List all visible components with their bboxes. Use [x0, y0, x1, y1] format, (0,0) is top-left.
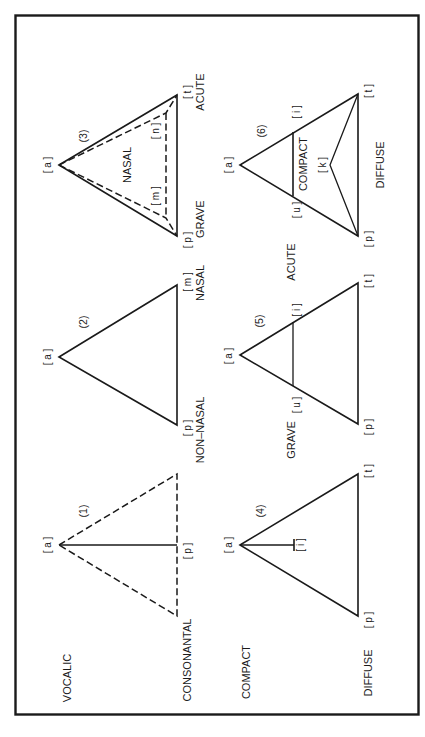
panel-5-vertex-i: [ i ]: [291, 303, 302, 317]
panel-4-number: (4): [254, 505, 266, 518]
panel-6-k-chevron: [330, 94, 358, 236]
panel-6-vertex-u: [ u ]: [291, 201, 302, 218]
panel-4-compact-label: COMPACT: [240, 645, 252, 699]
panel-5-vertex-p: [ p ]: [363, 418, 374, 435]
panel-4-vertex-t: [ t ]: [363, 464, 374, 478]
panel-3-vertex-t: [ t ]: [182, 85, 193, 99]
panel-5-vertex-a: [ a ]: [223, 347, 234, 364]
panel-2-vertex-p: [ p ]: [182, 419, 193, 436]
panel-4: (4) [ a ] [ i ] [ t ] [ p ] COMPACT DIFF…: [223, 464, 374, 699]
panel-1-vocalic-label: VOCALIC: [61, 654, 73, 702]
panel-2-vertex-m: [ m ]: [182, 272, 193, 292]
panel-2: (2) [ a ] [ m ] [ p ] NASAL NON–NASAL: [42, 265, 206, 463]
panel-1: (1) [ a ] [ p ] CONSONANTAL VOCALIC: [42, 474, 193, 702]
panel-6-vertex-p: [ p ]: [363, 230, 374, 247]
panel-4-vertex-a: [ a ]: [223, 536, 234, 553]
panel-3: (3) [ a ] [ t ] [ p ] [ n ] [ m ] NASAL …: [42, 73, 206, 248]
panel-3-vertex-a: [ a ]: [42, 156, 53, 173]
panel-3-vertex-m: [ m ]: [150, 186, 161, 206]
panel-6-compact-label: COMPACT: [297, 137, 309, 191]
panel-6-vertex-k: [ k ]: [317, 157, 328, 173]
panel-2-vertex-a: [ a ]: [42, 348, 53, 365]
panel-4-diffuse-label: DIFFUSE: [362, 649, 374, 696]
panel-5-vertex-u: [ u ]: [291, 396, 302, 413]
panel-3-nasal-label: NASAL: [121, 147, 133, 183]
panel-6-vertex-a: [ a ]: [223, 156, 234, 173]
panel-3-grave-label: GRAVE: [194, 200, 206, 238]
panel-6-number: (6): [255, 125, 267, 138]
panel-4-vertex-p: [ p ]: [363, 611, 374, 628]
panel-3-acute-label: ACUTE: [194, 73, 206, 110]
panel-2-triangle: [59, 285, 177, 425]
panel-6-vertex-t: [ t ]: [363, 84, 374, 98]
panel-1-vertex-a: [ a ]: [42, 536, 53, 553]
panel-5-grave-label: GRAVE: [285, 421, 297, 459]
panel-6: (6) [ a ] [ t ] [ p ] [ i ] [ u ] COMPAC…: [223, 84, 386, 248]
panel-5-acute-label: ACUTE: [285, 243, 297, 280]
panel-3-vertex-n: [ n ]: [150, 122, 161, 139]
panel-1-consonantal-label: CONSONANTAL: [181, 619, 193, 702]
panel-3-vertex-p: [ p ]: [182, 231, 193, 248]
panel-4-vertex-i: [ i ]: [295, 538, 306, 552]
panel-6-diffuse-label: DIFFUSE: [374, 141, 386, 188]
panel-2-number: (2): [77, 316, 89, 329]
panel-6-vertex-i: [ i ]: [291, 105, 302, 119]
panel-5: (5) [ a ] [ t ] [ p ] [ i ] [ u ] ACUTE …: [223, 243, 374, 458]
panel-2-non-nasal-label: NON–NASAL: [194, 397, 206, 464]
panel-5-number: (5): [253, 315, 265, 328]
panel-5-vertex-t: [ t ]: [363, 274, 374, 288]
panel-1-number: (1): [77, 505, 89, 518]
phonological-triangles-figure: (3) [ a ] [ t ] [ p ] [ n ] [ m ] NASAL …: [0, 0, 425, 737]
panel-3-number: (3): [77, 130, 89, 143]
panel-2-nasal-label: NASAL: [194, 265, 206, 301]
panel-1-vertex-p: [ p ]: [182, 542, 193, 559]
